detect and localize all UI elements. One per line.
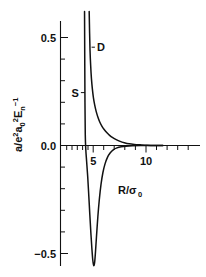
x-axis-title-sub: 0 bbox=[138, 190, 142, 199]
annotation-s: S bbox=[72, 87, 85, 99]
y-tick-label-2: −0.5 bbox=[34, 248, 56, 260]
curve-doublet bbox=[89, 12, 163, 146]
s-curve-label: S bbox=[72, 87, 79, 99]
y-tick-label-0: 0.5 bbox=[41, 32, 56, 44]
chart-svg: 0.5 0.0 −0.5 5 10 R/σ 0 a/e2a02En−1 S D bbox=[0, 0, 206, 277]
d-curve-label: D bbox=[97, 41, 105, 53]
x-tick-label-0: 5 bbox=[90, 155, 96, 167]
x-axis-title: R/σ 0 bbox=[118, 184, 142, 199]
y-axis-title: a/e2a02En−1 bbox=[11, 98, 27, 152]
annotation-d: D bbox=[92, 41, 105, 53]
x-tick-label-1: 10 bbox=[140, 155, 152, 167]
y-axis-title-p3: E bbox=[12, 111, 24, 118]
svg-text:a/e2a02En−1: a/e2a02En−1 bbox=[11, 98, 27, 152]
chart-figure: 0.5 0.0 −0.5 5 10 R/σ 0 a/e2a02En−1 S D bbox=[0, 0, 206, 277]
y-tick-label-1: 0.0 bbox=[41, 140, 56, 152]
x-axis-title-main: R/σ bbox=[118, 184, 137, 196]
y-axis-title-sup3: −1 bbox=[11, 98, 20, 107]
y-axis-title-p1: a/e bbox=[12, 137, 24, 152]
